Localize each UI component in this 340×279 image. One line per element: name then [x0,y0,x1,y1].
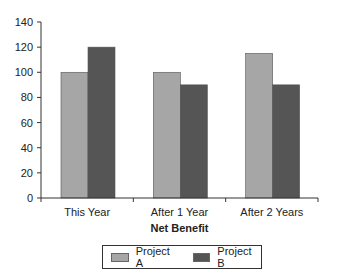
bar-project-b-1 [180,85,207,198]
legend-swatch-project-b [193,253,211,262]
chart-legend: Project A Project B [102,245,262,269]
bar-project-b-0 [88,47,115,198]
legend-item-project-b: Project B [193,245,261,269]
y-tick-label: 140 [15,16,33,28]
legend-swatch-project-a [111,253,129,262]
x-tick-label: After 1 Year [151,206,209,218]
legend-label-project-a: Project A [136,245,179,269]
y-tick-label: 120 [15,41,33,53]
bar-project-a-0 [61,72,88,198]
y-tick-label: 40 [21,142,33,154]
bar-chart: This YearAfter 1 YearAfter 2 Years020406… [0,0,340,279]
x-tick-label: After 2 Years [240,206,303,218]
x-tick-label: This Year [64,206,110,218]
y-tick-label: 0 [27,192,33,204]
legend-item-project-a: Project A [111,245,179,269]
y-tick-label: 60 [21,117,33,129]
legend-label-project-b: Project B [217,245,261,269]
x-axis-title: Net Benefit [150,222,208,234]
y-tick-label: 20 [21,167,33,179]
bar-project-a-2 [246,53,273,198]
y-tick-label: 80 [21,91,33,103]
bar-project-a-1 [153,72,180,198]
y-tick-label: 100 [15,66,33,78]
bar-project-b-2 [273,85,300,198]
